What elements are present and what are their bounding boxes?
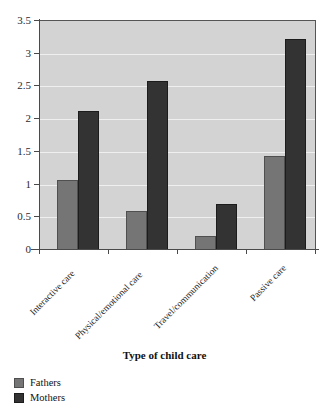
legend-item-mothers: Mothers (14, 390, 154, 405)
bar-fathers-0 (57, 180, 78, 250)
chart-legend: Fathers Mothers (14, 375, 154, 405)
legend-swatch-fathers-icon (14, 378, 24, 388)
bar-mothers-2 (216, 204, 237, 250)
y-axis-tick-label: 2.5 (0, 79, 31, 91)
x-axis-tick-mark (108, 249, 109, 254)
y-axis-tick-mark (34, 118, 39, 119)
bar-fathers-3 (264, 156, 285, 250)
x-axis-tick-mark (246, 249, 247, 254)
y-axis-tick-label: 1.5 (0, 145, 31, 157)
bar-mothers-0 (78, 111, 99, 250)
y-axis-tick-mark (34, 20, 39, 21)
x-axis-title: Type of child care (0, 349, 329, 361)
x-axis-label-1: Physical/emotional care (73, 270, 144, 341)
x-axis-label-3: Passive care (248, 263, 288, 303)
bar-mothers-3 (285, 39, 306, 250)
y-axis-tick-mark (34, 53, 39, 54)
x-axis-tick-mark-origin (39, 249, 40, 254)
legend-swatch-mothers-icon (14, 393, 24, 403)
y-axis-tick-mark (34, 151, 39, 152)
bar-chart: 00.511.522.533.5 Interactive carePhysica… (0, 0, 329, 410)
y-axis-tick-label: 0 (0, 243, 31, 255)
legend-label-fathers: Fathers (30, 377, 61, 389)
legend-item-fathers: Fathers (14, 375, 154, 390)
y-axis-tick-label: 0.5 (0, 210, 31, 222)
y-axis-tick-mark (34, 85, 39, 86)
bar-fathers-2 (195, 236, 216, 250)
y-axis-tick-mark (34, 184, 39, 185)
x-axis-label-2: Travel/communication (152, 263, 220, 331)
y-axis-tick-mark (34, 216, 39, 217)
x-axis-label-0: Interactive care (28, 268, 77, 317)
bar-mothers-1 (147, 81, 168, 250)
plot-area (39, 20, 316, 250)
y-axis-line (39, 19, 40, 250)
y-axis-tick-label: 2 (0, 112, 31, 124)
gridline (39, 54, 315, 55)
x-axis-line (31, 249, 319, 250)
y-axis-tick-label: 3 (0, 47, 31, 59)
gridline (39, 86, 315, 87)
y-axis-tick-label: 3.5 (0, 14, 31, 26)
x-axis-tick-mark (177, 249, 178, 254)
x-axis-tick-mark (315, 249, 316, 254)
legend-label-mothers: Mothers (30, 392, 65, 404)
y-axis-tick-label: 1 (0, 178, 31, 190)
bar-fathers-1 (126, 211, 147, 250)
